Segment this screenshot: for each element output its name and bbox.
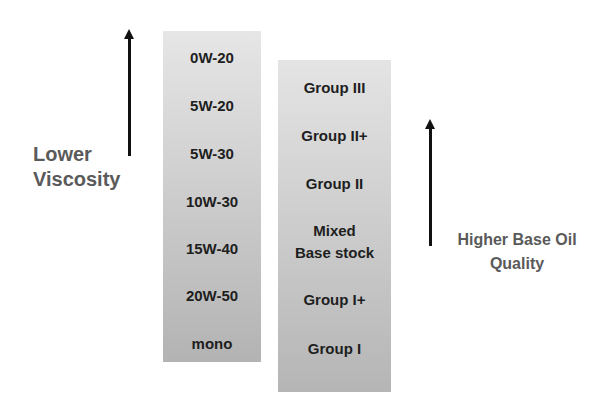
viscosity-arrow-icon: [128, 38, 131, 156]
grade-5w-30: 5W-30: [163, 145, 261, 163]
grade-0w-20: 0W-20: [163, 49, 261, 67]
group-i: Group I: [278, 340, 391, 358]
grade-10w-30: 10W-30: [163, 193, 261, 211]
group-i-plus: Group I+: [278, 291, 391, 309]
higher-base-oil-quality-label: Higher Base Oil Quality: [442, 228, 592, 276]
grade-5w-20: 5W-20: [163, 97, 261, 115]
lower-viscosity-label: Lower Viscosity: [33, 142, 120, 192]
grade-15w-40: 15W-40: [163, 240, 261, 258]
group-iii: Group III: [278, 79, 391, 97]
viscosity-grade-column: 0W-20 5W-20 5W-30 10W-30 15W-40 20W-50 m…: [163, 31, 261, 362]
grade-mono: mono: [163, 335, 261, 353]
base-oil-group-column: Group III Group II+ Group II Mixed Base …: [278, 60, 391, 392]
group-ii: Group II: [278, 175, 391, 193]
grade-20w-50: 20W-50: [163, 287, 261, 305]
group-ii-plus: Group II+: [278, 127, 391, 145]
quality-arrow-icon: [429, 128, 432, 246]
mixed-base-stock: Mixed Base stock: [278, 222, 391, 262]
